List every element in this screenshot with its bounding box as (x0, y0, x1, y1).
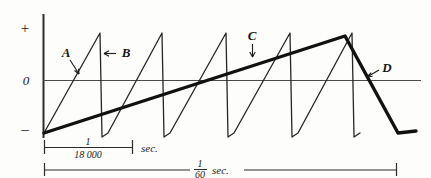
short-dimension-denominator: 18 000 (74, 149, 102, 160)
short-dimension-unit: sec. (141, 142, 158, 154)
waveform-figure: + 0 – A B C D 1 18 000 sec. 1 60 sec. (0, 0, 431, 178)
label-b: B (121, 45, 131, 60)
label-a: A (61, 45, 71, 60)
label-d: D (381, 60, 392, 75)
long-dimension-unit: sec. (212, 164, 229, 176)
long-dimension-denominator: 60 (195, 169, 205, 178)
y-axis-plus-label: + (21, 20, 29, 36)
y-axis-zero-label: 0 (23, 73, 30, 88)
paper-background (0, 0, 431, 178)
short-dimension-numerator: 1 (86, 136, 91, 147)
label-c: C (248, 28, 257, 43)
figure-root: + 0 – A B C D 1 18 000 sec. 1 60 sec. (0, 0, 431, 178)
y-axis-minus-label: – (20, 121, 29, 137)
long-dimension-numerator: 1 (198, 158, 203, 169)
